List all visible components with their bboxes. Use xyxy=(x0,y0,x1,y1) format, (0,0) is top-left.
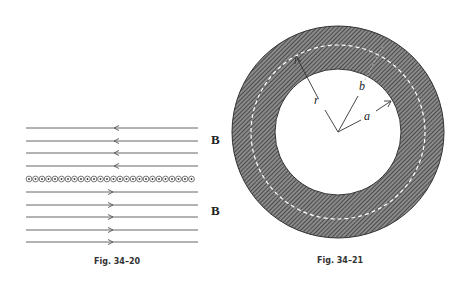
caption-fig-34-20: Fig. 34–20 xyxy=(94,257,140,266)
label-b: b xyxy=(359,79,365,93)
caption-fig-34-21: Fig. 34–21 xyxy=(317,256,363,265)
current-sheet xyxy=(26,176,194,182)
coaxial-ring-figure: r b a xyxy=(232,26,444,238)
field-label-top: B xyxy=(211,132,220,148)
diagram-canvas: r b a xyxy=(0,0,468,282)
field-label-bottom: B xyxy=(211,203,220,219)
label-a: a xyxy=(364,109,370,123)
upper-field-lines xyxy=(26,126,198,169)
field-lines-figure xyxy=(26,126,198,245)
lower-field-lines xyxy=(26,190,198,245)
label-r: r xyxy=(314,93,319,107)
